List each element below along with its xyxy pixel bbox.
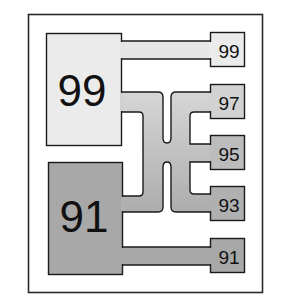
output-95-label: 95 — [218, 144, 239, 165]
blend-diagram: 99 91 99 97 95 93 91 — [0, 0, 283, 305]
output-97-box: 97 — [209, 85, 245, 119]
pipe-91-to-91 — [122, 247, 211, 265]
output-93-label: 93 — [218, 195, 239, 216]
pipe-99-to-99 — [121, 41, 211, 59]
source-99-tank: 99 — [47, 34, 124, 146]
source-99-label: 99 — [58, 66, 107, 115]
output-91-box: 91 — [209, 239, 245, 273]
output-93-box: 93 — [209, 187, 245, 221]
output-91-label: 91 — [218, 247, 239, 268]
output-99-box: 99 — [209, 33, 245, 67]
output-97-label: 97 — [218, 93, 239, 114]
output-95-box: 95 — [209, 136, 245, 170]
output-99-label: 99 — [218, 41, 239, 62]
source-91-tank: 91 — [49, 163, 125, 275]
source-91-label: 91 — [60, 192, 109, 241]
